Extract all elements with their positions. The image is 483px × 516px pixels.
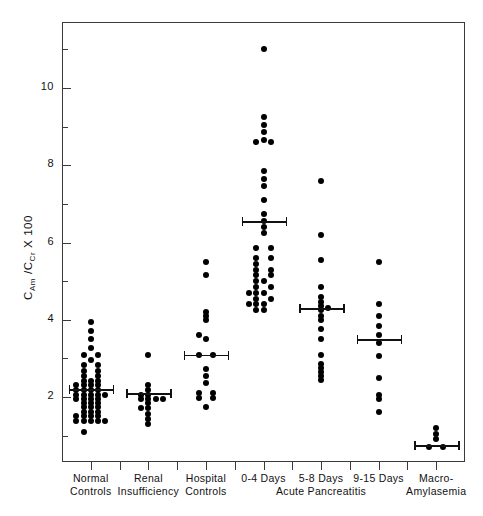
data-point	[196, 395, 202, 401]
data-point	[376, 313, 382, 319]
data-point	[88, 328, 94, 334]
y-tick-major	[62, 243, 71, 244]
x-tick-center	[148, 462, 149, 470]
data-point	[318, 377, 324, 383]
y-axis-label: CAm /CCr X 100	[22, 215, 37, 300]
x-tick-center	[264, 462, 265, 470]
data-point	[203, 336, 209, 342]
data-point	[88, 345, 94, 351]
data-point	[81, 352, 87, 358]
data-point	[268, 245, 274, 251]
mean-bar-cap	[401, 335, 403, 344]
mean-bar-cap	[357, 335, 359, 344]
y-tick-label: 10	[26, 80, 54, 92]
y-tick-major	[62, 320, 71, 321]
x-tick-center	[206, 462, 207, 470]
data-point	[376, 301, 382, 307]
data-point	[261, 307, 267, 313]
x-category-label-line: Amylasemia	[386, 485, 483, 498]
data-point	[376, 332, 382, 338]
data-point	[261, 290, 267, 296]
x-category-label-line: Controls	[156, 485, 256, 498]
mean-bar-cap	[126, 389, 128, 398]
data-point	[261, 176, 267, 182]
x-tick-center	[436, 462, 437, 470]
data-point	[153, 396, 159, 402]
plot-frame	[62, 22, 465, 462]
data-point	[246, 290, 252, 296]
data-point	[268, 139, 274, 145]
y-tick-major	[62, 165, 71, 166]
mean-bar-cap	[184, 351, 186, 360]
mean-bar	[126, 393, 170, 395]
data-point	[268, 255, 274, 261]
y-tick-minor	[62, 436, 68, 437]
x-tick-boundary	[350, 462, 351, 470]
data-point	[203, 404, 209, 410]
y-tick-major	[62, 88, 71, 89]
data-point	[261, 168, 267, 174]
x-tick-boundary	[120, 462, 121, 470]
x-tick-boundary	[235, 462, 236, 470]
y-tick-label: 4	[26, 312, 54, 324]
data-point	[95, 352, 101, 358]
mean-bar	[69, 389, 113, 391]
mean-bar-cap	[286, 217, 288, 226]
data-point	[160, 396, 166, 402]
supergroup-label-acute-pancreatitis: Acute Pancreatitis	[261, 485, 381, 497]
x-category-label: Macro-Amylasemia	[386, 472, 483, 498]
data-point	[376, 375, 382, 381]
mean-bar	[299, 308, 343, 310]
data-point	[261, 278, 267, 284]
x-tick-boundary	[407, 462, 408, 470]
data-point	[81, 429, 87, 435]
y-tick-minor	[62, 358, 68, 359]
x-tick-boundary	[292, 462, 293, 470]
data-point	[145, 352, 151, 358]
mean-bar-cap	[170, 389, 172, 398]
data-point	[376, 340, 382, 346]
y-tick-minor	[62, 127, 68, 128]
data-point	[253, 290, 259, 296]
data-point	[203, 317, 209, 323]
data-point	[261, 211, 267, 217]
mean-bar-cap	[228, 351, 230, 360]
mean-bar-cap	[414, 441, 416, 450]
data-point	[261, 46, 267, 52]
mean-bar-cap	[69, 385, 71, 394]
y-tick-label: 8	[26, 157, 54, 169]
data-point	[318, 232, 324, 238]
data-point	[318, 178, 324, 184]
data-point	[376, 396, 382, 402]
data-point	[88, 418, 94, 424]
mean-bar-cap	[343, 304, 345, 313]
x-tick-center	[321, 462, 322, 470]
data-point	[318, 352, 324, 358]
data-point	[261, 197, 267, 203]
y-tick-minor	[62, 281, 68, 282]
mean-bar	[414, 445, 458, 447]
x-tick-center	[379, 462, 380, 470]
data-point	[268, 296, 274, 302]
data-point	[210, 395, 216, 401]
data-point	[88, 319, 94, 325]
data-point	[376, 259, 382, 265]
mean-bar-cap	[299, 304, 301, 313]
data-point	[376, 323, 382, 329]
x-tick-boundary	[177, 462, 178, 470]
x-category-label-line: Macro-	[386, 472, 483, 485]
mean-bar-cap	[113, 385, 115, 394]
data-point	[138, 405, 144, 411]
mean-bar	[242, 221, 286, 223]
figure-scatter-plot: CAm /CCr X 100 246810 NormalControlsRena…	[0, 0, 483, 516]
mean-bar	[184, 355, 228, 357]
data-point	[261, 137, 267, 143]
data-point	[261, 230, 267, 236]
data-point	[261, 114, 267, 120]
data-point	[88, 336, 94, 342]
data-point	[81, 418, 87, 424]
data-point	[318, 317, 324, 323]
data-point	[318, 257, 324, 263]
y-tick-label: 2	[26, 389, 54, 401]
mean-bar	[357, 339, 401, 341]
